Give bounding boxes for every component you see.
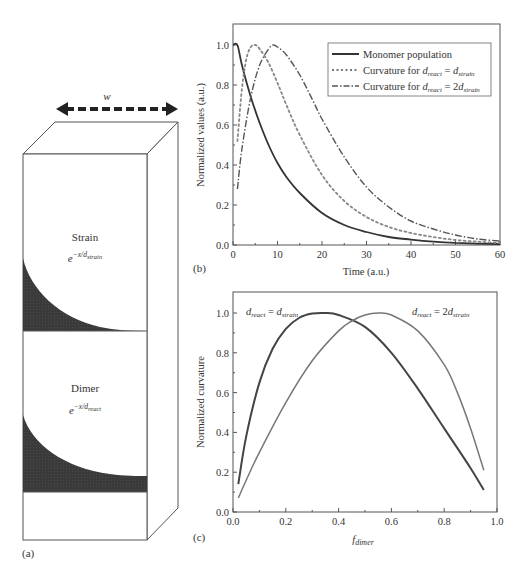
y-tick-label: 0.4 bbox=[216, 427, 230, 438]
y-tick-label: 0.0 bbox=[216, 240, 229, 251]
chart-c-series bbox=[238, 313, 484, 498]
x-tick-label: 0.2 bbox=[279, 516, 292, 527]
panel-c-label: (c) bbox=[193, 531, 206, 544]
panel-a-label: (a) bbox=[22, 547, 35, 560]
chart-b-legend: Monomer population Curvature for dreact … bbox=[328, 43, 491, 96]
chart-c-xlabel: fdimer bbox=[352, 534, 374, 547]
x-tick-label: 0.6 bbox=[385, 516, 398, 527]
chart-b-xlabel: Time (a.u.) bbox=[343, 266, 390, 278]
x-tick-label: 40 bbox=[406, 249, 417, 260]
annotation-double: dreact = 2dstrain bbox=[412, 306, 470, 319]
x-tick-label: 0.8 bbox=[438, 516, 451, 527]
y-tick-label: 0.4 bbox=[216, 160, 230, 171]
x-tick-label: 30 bbox=[361, 249, 372, 260]
chart-c-frame bbox=[233, 292, 497, 512]
x-tick-label: 0 bbox=[230, 249, 235, 260]
x-tick-label: 1.0 bbox=[490, 516, 503, 527]
series-double-curve bbox=[238, 313, 484, 498]
y-tick-label: 0.8 bbox=[216, 80, 229, 91]
strain-label: Strain bbox=[72, 231, 99, 243]
dimer-label: Dimer bbox=[71, 382, 99, 394]
chart-b-ylabel: Normalized values (a.u.) bbox=[195, 83, 207, 187]
y-tick-label: 0.6 bbox=[216, 388, 229, 399]
series-equal-curve bbox=[238, 313, 484, 490]
width-arrow-icon bbox=[56, 102, 178, 116]
box-side-face bbox=[147, 122, 178, 540]
y-tick-label: 0.6 bbox=[216, 120, 229, 131]
x-tick-label: 10 bbox=[272, 249, 283, 260]
y-tick-label: 1.0 bbox=[216, 308, 229, 319]
x-tick-label: 60 bbox=[495, 249, 506, 260]
x-tick-label: 50 bbox=[450, 249, 461, 260]
panel-a: w Strain e−x/dstrain Dimer e−x/dreact (a… bbox=[22, 90, 178, 560]
panel-b-label: (b) bbox=[193, 262, 206, 275]
chart-c-ticks: 0.00.20.40.60.81.00.00.20.40.60.81.0 bbox=[216, 308, 504, 527]
y-tick-label: 1.0 bbox=[216, 40, 229, 51]
width-label: w bbox=[103, 90, 111, 102]
y-tick-label: 0.2 bbox=[216, 467, 229, 478]
y-tick-label: 0.0 bbox=[216, 507, 229, 518]
chart-c: 0.00.20.40.60.81.00.00.20.40.60.81.0 Nor… bbox=[193, 292, 504, 547]
svg-text:Monomer population: Monomer population bbox=[363, 49, 453, 60]
chart-c-ylabel: Normalized curvature bbox=[195, 356, 206, 448]
x-tick-label: 0.4 bbox=[332, 516, 346, 527]
y-tick-label: 0.8 bbox=[216, 348, 229, 359]
figure: w Strain e−x/dstrain Dimer e−x/dreact (a… bbox=[0, 0, 524, 575]
annotation-equal: dreact = dstrain bbox=[246, 306, 299, 319]
y-tick-label: 0.2 bbox=[216, 200, 229, 211]
x-tick-label: 20 bbox=[317, 249, 328, 260]
chart-b: 01020304050600.00.20.40.60.81.0 Normaliz… bbox=[193, 24, 505, 278]
